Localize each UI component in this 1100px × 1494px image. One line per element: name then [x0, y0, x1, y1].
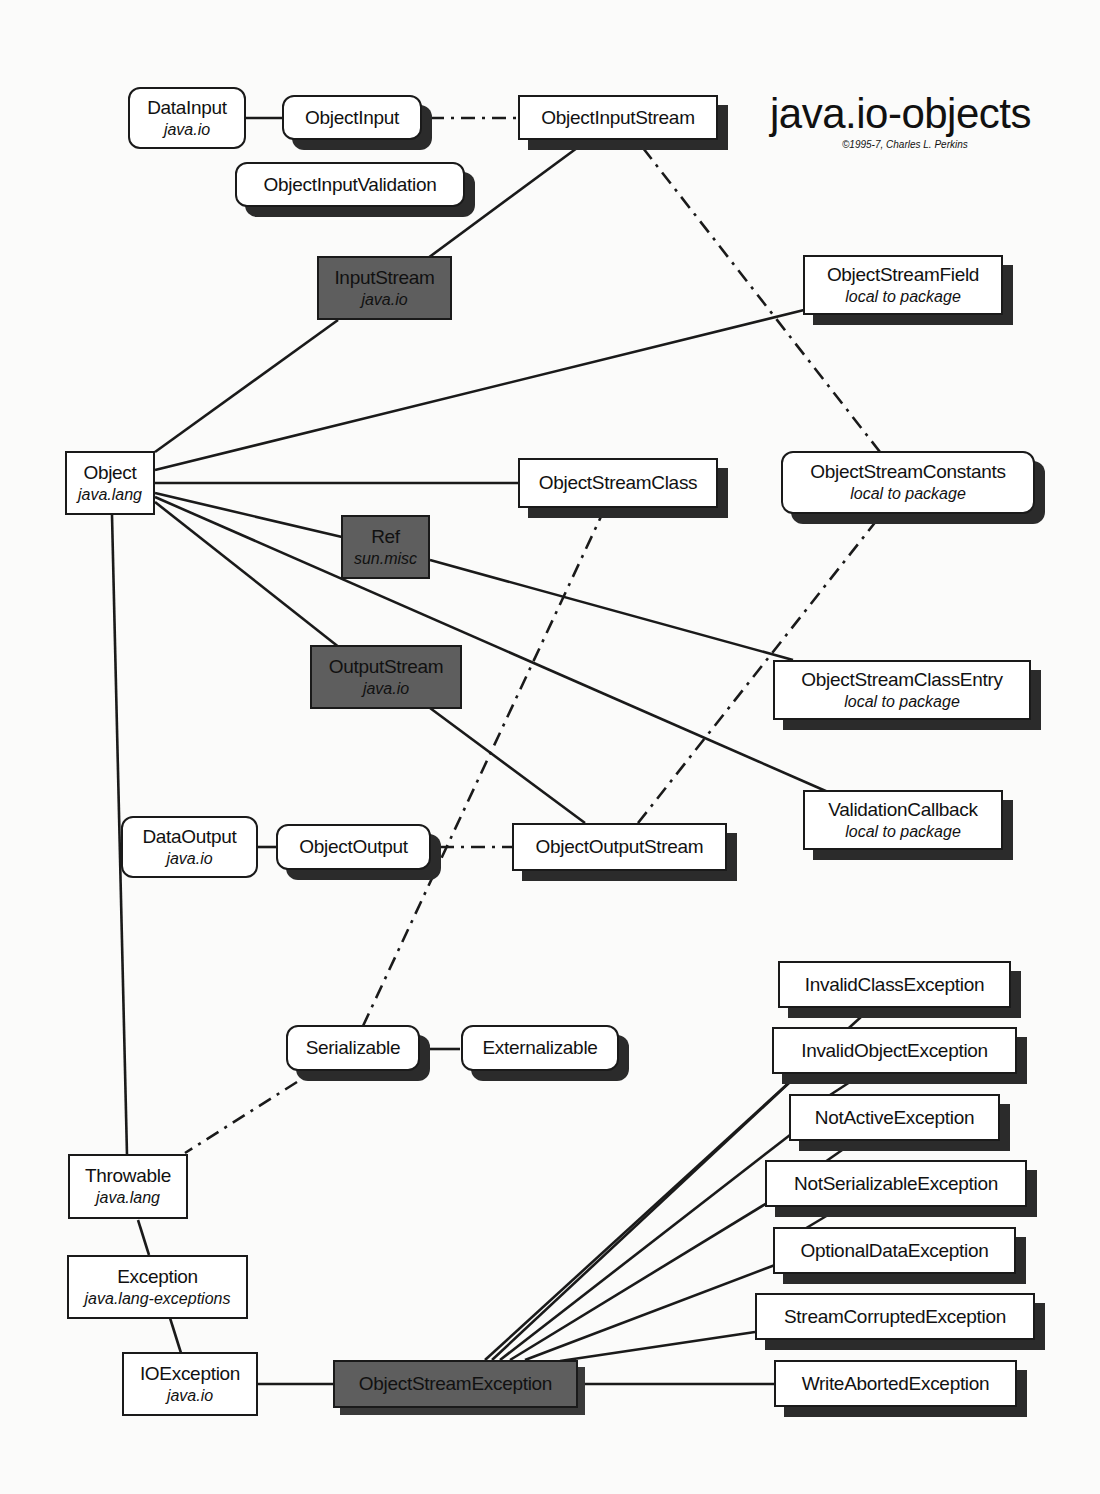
- node-name: ObjectInputValidation: [264, 174, 437, 196]
- edge-object-osfield: [155, 310, 804, 470]
- edge-object-outputstream: [155, 502, 340, 648]
- node-package: java.lang-exceptions: [85, 1290, 231, 1308]
- copyright-note: ©1995-7, Charles L. Perkins: [842, 139, 968, 150]
- node-name: Ref: [371, 526, 400, 548]
- node-externalizable[interactable]: Externalizable: [461, 1025, 619, 1071]
- node-notactiveexception[interactable]: NotActiveException: [789, 1094, 1000, 1141]
- node-name: WriteAbortedException: [802, 1373, 990, 1395]
- node-name: NotSerializableException: [794, 1173, 998, 1195]
- node-objectstreamclassentry[interactable]: ObjectStreamClassEntry local to package: [773, 660, 1031, 720]
- node-name: ObjectStreamClass: [539, 472, 698, 494]
- node-name: NotActiveException: [815, 1107, 974, 1129]
- node-objectinputvalidation[interactable]: ObjectInputValidation: [235, 162, 465, 207]
- node-package: java.io: [361, 291, 407, 309]
- node-notserializableexception[interactable]: NotSerializableException: [765, 1160, 1027, 1207]
- edge-ref-osclassentry: [430, 560, 793, 660]
- node-name: OptionalDataException: [800, 1240, 988, 1262]
- edge-serializable-throwable: [185, 1082, 297, 1153]
- edge-object-validationcb: [155, 497, 828, 792]
- node-package: java.io: [166, 850, 212, 868]
- node-inputstream[interactable]: InputStream java.io: [317, 256, 452, 320]
- node-name: ObjectOutputStream: [536, 836, 704, 858]
- node-name: ObjectStreamException: [359, 1373, 552, 1395]
- node-writeabortedexception[interactable]: WriteAbortedException: [774, 1360, 1017, 1407]
- node-optionaldataexception[interactable]: OptionalDataException: [773, 1227, 1016, 1274]
- node-package: java.io: [164, 121, 210, 139]
- node-objectstreamexception[interactable]: ObjectStreamException: [333, 1360, 578, 1408]
- edge-exception-ioexception: [170, 1318, 181, 1353]
- edge-ose-notactive: [500, 1135, 790, 1360]
- node-package: java.io: [363, 680, 409, 698]
- node-object[interactable]: Object java.lang: [65, 451, 155, 515]
- node-name: ObjectInputStream: [541, 107, 694, 129]
- node-name: ObjectStreamField: [827, 264, 979, 286]
- node-package: local to package: [845, 288, 961, 306]
- diagram-title: java.io-objects: [770, 90, 1031, 138]
- node-name: Serializable: [306, 1037, 401, 1059]
- node-serializable[interactable]: Serializable: [286, 1025, 420, 1071]
- node-datainput[interactable]: DataInput java.io: [128, 87, 246, 149]
- node-package: sun.misc: [354, 550, 417, 568]
- node-objectstreamclass[interactable]: ObjectStreamClass: [518, 458, 718, 508]
- edge-outputstream-oos: [430, 708, 585, 823]
- node-name: StreamCorruptedException: [784, 1306, 1006, 1328]
- node-name: Externalizable: [482, 1037, 597, 1059]
- node-ioexception[interactable]: IOException java.io: [122, 1352, 258, 1416]
- node-objectinputstream[interactable]: ObjectInputStream: [518, 95, 718, 140]
- node-package: java.lang: [78, 486, 142, 504]
- node-name: InvalidObjectException: [801, 1040, 988, 1062]
- node-name: ObjectStreamClassEntry: [801, 669, 1002, 691]
- node-dataoutput[interactable]: DataOutput java.io: [121, 816, 258, 878]
- node-name: ObjectOutput: [299, 836, 407, 858]
- node-name: ObjectInput: [305, 107, 399, 129]
- node-name: InputStream: [334, 267, 434, 289]
- node-objectinput[interactable]: ObjectInput: [282, 95, 422, 140]
- node-name: Object: [83, 462, 136, 484]
- node-name: Throwable: [85, 1165, 171, 1187]
- node-name: InvalidClassException: [805, 974, 985, 996]
- edge-osclass-serializable: [363, 508, 605, 1026]
- node-package: java.io: [167, 1387, 213, 1405]
- node-streamcorruptedexception[interactable]: StreamCorruptedException: [755, 1293, 1035, 1340]
- node-validationcallback[interactable]: ValidationCallback local to package: [803, 790, 1003, 850]
- node-package: local to package: [845, 823, 961, 841]
- node-objectstreamconstants[interactable]: ObjectStreamConstants local to package: [781, 451, 1035, 514]
- node-invalidclassexception[interactable]: InvalidClassException: [778, 961, 1011, 1008]
- edge-object-ref: [155, 493, 342, 537]
- node-package: local to package: [844, 693, 960, 711]
- edge-throwable-exception: [138, 1220, 149, 1255]
- node-objectstreamfield[interactable]: ObjectStreamField local to package: [803, 255, 1003, 315]
- node-objectoutput[interactable]: ObjectOutput: [276, 824, 431, 870]
- node-ref[interactable]: Ref sun.misc: [341, 515, 430, 579]
- node-package: local to package: [850, 485, 966, 503]
- node-name: OutputStream: [329, 656, 444, 678]
- node-objectoutputstream[interactable]: ObjectOutputStream: [512, 823, 727, 871]
- node-name: ObjectStreamConstants: [810, 461, 1005, 483]
- node-package: java.lang: [96, 1189, 160, 1207]
- node-exception[interactable]: Exception java.lang-exceptions: [67, 1255, 248, 1319]
- node-name: ValidationCallback: [828, 799, 978, 821]
- node-throwable[interactable]: Throwable java.lang: [68, 1154, 188, 1219]
- edge-ose-invalidobject: [492, 1082, 790, 1360]
- node-name: Exception: [117, 1266, 198, 1288]
- node-name: DataInput: [147, 97, 227, 119]
- node-name: DataOutput: [142, 826, 236, 848]
- node-invalidobjectexception[interactable]: InvalidObjectException: [772, 1027, 1017, 1074]
- node-outputstream[interactable]: OutputStream java.io: [310, 645, 462, 709]
- node-name: IOException: [140, 1363, 240, 1385]
